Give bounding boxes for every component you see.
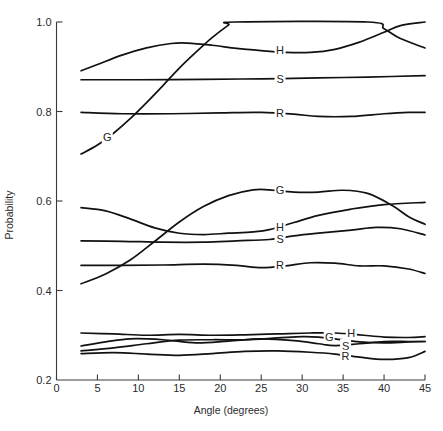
series-label-middle-group-H: H [276,221,284,233]
x-axis-title: Angle (degrees) [194,404,269,416]
x-tick-label: 10 [132,382,144,394]
y-tick-label: 0.4 [36,285,51,297]
series-label-middle-group-R: R [276,259,284,271]
y-tick-label: 0.2 [36,374,51,386]
series-label-middle-group-S: S [276,233,283,245]
series-label-upper-group-R: R [276,107,284,119]
y-tick-label: 1.0 [36,16,51,28]
x-tick-label: 25 [255,382,267,394]
series-label-upper-group-S: S [276,73,283,85]
series-label-lower-group-H: H [347,327,355,339]
chart-background [0,0,443,431]
series-label-middle-group-G: G [276,184,285,196]
x-tick-label: 5 [94,382,100,394]
x-tick-label: 0 [53,382,59,394]
x-tick-label: 20 [214,382,226,394]
series-label-lower-group-R: R [342,350,350,362]
x-tick-label: 40 [378,382,390,394]
series-label-upper-group-G: G [103,131,112,143]
y-tick-label: 0.8 [36,106,51,118]
x-tick-label: 30 [296,382,308,394]
series-label-upper-group-H: H [276,44,284,56]
y-axis-title: Probability [3,190,15,240]
probability-vs-angle-line-chart: 051015202530354045 0.20.40.60.81.0 GHSRG… [0,0,443,431]
x-tick-label: 15 [173,382,185,394]
x-tick-label: 45 [419,382,431,394]
series-label-lower-group-G: G [325,331,334,343]
chart-figure: 051015202530354045 0.20.40.60.81.0 GHSRG… [0,0,443,431]
y-tick-label: 0.6 [36,195,51,207]
x-tick-label: 35 [337,382,349,394]
